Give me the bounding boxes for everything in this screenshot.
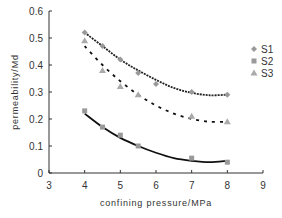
x-tick-label: 5 <box>118 180 124 191</box>
legend: S1S2S3 <box>251 44 274 79</box>
axes: 345678900.10.20.30.40.50.6 <box>29 6 266 192</box>
y-tick-label: 0.2 <box>29 114 43 125</box>
data-point-s2 <box>225 160 230 165</box>
data-point-s2 <box>136 144 141 149</box>
y-axis-title: permeability/Md <box>10 54 20 130</box>
y-tick-label: 0 <box>37 168 43 179</box>
x-tick-label: 4 <box>82 180 88 191</box>
legend-marker-s3 <box>251 70 258 76</box>
y-tick-label: 0.1 <box>29 141 43 152</box>
permeability-chart: 345678900.10.20.30.40.50.6 S1S2S3 confin… <box>0 0 282 218</box>
y-tick-label: 0.3 <box>29 87 43 98</box>
fit-curves <box>85 33 228 163</box>
x-tick-label: 9 <box>260 180 266 191</box>
data-point-s3 <box>224 118 231 124</box>
data-point-s1 <box>117 57 123 63</box>
data-point-s2 <box>100 125 105 130</box>
legend-marker-s2 <box>252 59 257 64</box>
data-point-s3 <box>117 83 124 89</box>
legend-label-s1: S1 <box>261 44 274 55</box>
data-point-s3 <box>135 91 142 97</box>
data-point-s2 <box>118 133 123 138</box>
data-point-s1 <box>224 92 230 98</box>
data-point-s3 <box>188 113 195 119</box>
legend-marker-s1 <box>251 46 257 52</box>
data-point-s2 <box>189 156 194 161</box>
legend-label-s3: S3 <box>261 68 274 79</box>
y-tick-label: 0.6 <box>29 6 43 17</box>
x-tick-label: 6 <box>153 180 159 191</box>
data-point-s3 <box>81 37 88 43</box>
data-points <box>81 30 231 165</box>
x-tick-label: 7 <box>189 180 195 191</box>
x-tick-label: 8 <box>225 180 231 191</box>
data-point-s3 <box>99 67 106 73</box>
x-axis-title: confining pressure/MPa <box>100 198 212 208</box>
y-tick-label: 0.4 <box>29 60 43 71</box>
data-point-s2 <box>82 108 87 113</box>
legend-label-s2: S2 <box>261 56 274 67</box>
x-tick-label: 3 <box>46 180 52 191</box>
y-tick-label: 0.5 <box>29 33 43 44</box>
